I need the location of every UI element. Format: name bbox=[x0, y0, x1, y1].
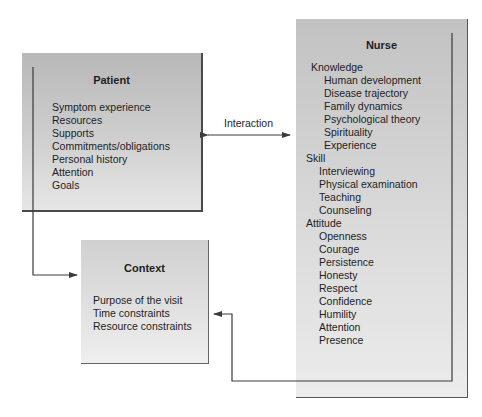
nurse-title: Nurse bbox=[296, 39, 467, 51]
context-title: Context bbox=[81, 262, 208, 274]
nurse-item: Courage bbox=[306, 243, 421, 256]
nurse-group-skill: Skill Interviewing Physical examination … bbox=[306, 152, 421, 217]
patient-item: Commitments/obligations bbox=[52, 140, 170, 153]
patient-item: Goals bbox=[52, 179, 170, 192]
patient-item: Resources bbox=[52, 114, 170, 127]
nurse-item: Confidence bbox=[306, 295, 421, 308]
nurse-item: Counseling bbox=[306, 204, 421, 217]
nurse-item: Respect bbox=[306, 282, 421, 295]
nurse-item: Teaching bbox=[306, 191, 421, 204]
group-heading: Skill bbox=[306, 152, 421, 165]
nurse-item: Humility bbox=[306, 308, 421, 321]
patient-item: Personal history bbox=[52, 153, 170, 166]
nurse-item: Attention bbox=[306, 321, 421, 334]
nurse-item: Disease trajectory bbox=[311, 87, 421, 100]
context-item: Resource constraints bbox=[93, 320, 192, 333]
patient-item: Attention bbox=[52, 166, 170, 179]
nurse-item: Interviewing bbox=[306, 165, 421, 178]
nurse-group-attitude: Attitude Openness Courage Persistence Ho… bbox=[306, 217, 421, 347]
group-heading: Knowledge bbox=[311, 61, 421, 74]
nurse-group-knowledge: Knowledge Human development Disease traj… bbox=[311, 61, 421, 152]
context-item: Purpose of the visit bbox=[93, 294, 192, 307]
group-heading: Attitude bbox=[306, 217, 421, 230]
nurse-item: Experience bbox=[311, 139, 421, 152]
patient-item: Symptom experience bbox=[52, 101, 170, 114]
context-box: Context Purpose of the visit Time constr… bbox=[81, 240, 209, 364]
context-list: Purpose of the visit Time constraints Re… bbox=[93, 294, 192, 333]
context-item: Time constraints bbox=[93, 307, 192, 320]
nurse-item: Openness bbox=[306, 230, 421, 243]
patient-title: Patient bbox=[22, 74, 201, 86]
patient-item: Supports bbox=[52, 127, 170, 140]
interaction-label: Interaction bbox=[224, 117, 273, 129]
nurse-item: Physical examination bbox=[306, 178, 421, 191]
patient-list: Symptom experience Resources Supports Co… bbox=[52, 101, 170, 192]
patient-box: Patient Symptom experience Resources Sup… bbox=[22, 53, 203, 212]
nurse-item: Presence bbox=[306, 334, 421, 347]
nurse-item: Honesty bbox=[306, 269, 421, 282]
nurse-item: Human development bbox=[311, 74, 421, 87]
nurse-list: Knowledge Human development Disease traj… bbox=[311, 61, 421, 347]
nurse-item: Spirituality bbox=[311, 126, 421, 139]
nurse-item: Persistence bbox=[306, 256, 421, 269]
nurse-item: Family dynamics bbox=[311, 100, 421, 113]
nurse-item: Psychological theory bbox=[311, 113, 421, 126]
nurse-box: Nurse Knowledge Human development Diseas… bbox=[296, 19, 468, 398]
